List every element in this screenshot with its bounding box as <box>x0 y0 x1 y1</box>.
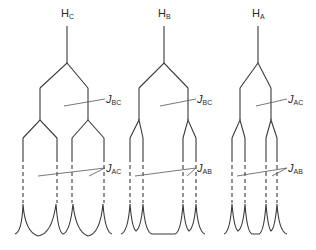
tree-ha-split-1 <box>240 63 271 88</box>
tree-hc-split-2a <box>23 120 57 138</box>
label-hc-first-coupling: JBC <box>106 94 121 106</box>
splitting-tree-graphics <box>0 0 316 250</box>
splitting-diagram: HC HB HA JBC JAC JBC JAB JAC JAB <box>0 0 316 250</box>
tree-hc-split-2b <box>72 120 104 138</box>
label-ha-j2-sub: AB <box>294 168 303 175</box>
tree-hb-split-2b <box>183 120 196 138</box>
label-hb-first-coupling: JBC <box>197 94 212 106</box>
label-hb: HB <box>158 8 171 20</box>
label-hb-second-coupling: JAB <box>197 163 212 175</box>
tree-hc-dashes <box>23 165 104 203</box>
label-hc: HC <box>61 8 74 20</box>
label-ha-main: H <box>252 7 260 19</box>
label-ha-first-coupling: JAC <box>288 94 303 106</box>
label-hb-j1-sub: BC <box>203 99 213 106</box>
label-hb-sub: B <box>166 13 171 20</box>
tree-hc <box>15 26 112 236</box>
label-hc-j2-sub: AC <box>112 168 122 175</box>
tree-ha <box>224 26 287 234</box>
tree-hc-spectrum <box>15 204 112 236</box>
label-ha: HA <box>252 8 265 20</box>
tree-ha-leg <box>232 138 277 162</box>
label-ha-sub: A <box>260 13 265 20</box>
label-ha-j1-sub: AC <box>294 99 304 106</box>
label-hc-second-coupling: JAC <box>106 163 121 175</box>
tree-ha-split-2a <box>232 120 245 138</box>
tree-hb-spectrum <box>121 204 205 234</box>
tree-hb-split-2a <box>130 120 143 138</box>
tree-hb-dashes <box>130 165 196 203</box>
label-hb-j2-sub: AB <box>203 168 212 175</box>
label-hc-sub: C <box>69 13 74 20</box>
label-ha-second-coupling: JAB <box>288 163 303 175</box>
label-hc-j1-sub: BC <box>112 99 122 106</box>
tree-hb-split-1 <box>139 63 188 88</box>
tree-hc-split-1 <box>40 63 88 88</box>
tree-ha-split-2b <box>266 120 277 138</box>
label-hb-main: H <box>158 7 166 19</box>
tree-hb-leg <box>130 138 196 162</box>
leader-hb-jbc <box>160 99 196 106</box>
leader-hc-jbc <box>64 99 105 106</box>
leader-hb-jab <box>135 168 196 176</box>
label-hc-main: H <box>61 7 69 19</box>
tree-ha-spectrum <box>224 204 287 234</box>
tree-hb <box>121 26 205 234</box>
tree-hc-leg <box>23 138 104 162</box>
